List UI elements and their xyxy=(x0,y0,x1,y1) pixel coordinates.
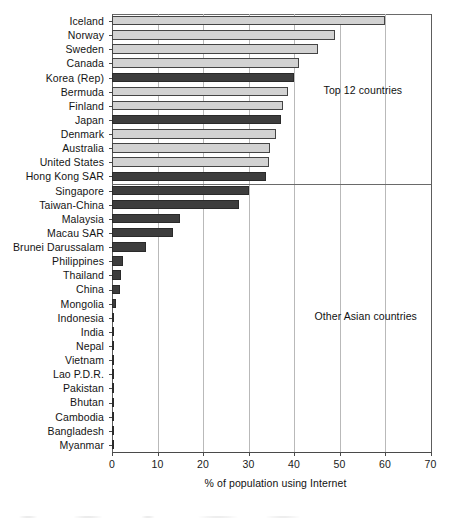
y-tick xyxy=(109,162,112,163)
bar-row xyxy=(112,381,431,395)
y-tick xyxy=(109,332,112,333)
bar-row xyxy=(112,184,431,198)
internet-usage-bar-chart: IcelandNorwaySwedenCanadaKorea (Rep)Berm… xyxy=(0,0,451,526)
bar-row xyxy=(112,212,431,226)
y-tick xyxy=(109,318,112,319)
bar-row xyxy=(112,14,431,28)
bar-malaysia xyxy=(112,214,180,223)
bar-row xyxy=(112,410,431,424)
y-tick xyxy=(109,78,112,79)
y-label-denmark: Denmark xyxy=(61,127,104,141)
bar-row xyxy=(112,438,431,452)
bar-row xyxy=(112,155,431,169)
bar-mongolia xyxy=(112,299,116,308)
y-label-thailand: Thailand xyxy=(63,268,104,282)
bar-india xyxy=(112,327,114,336)
x-tick-label-10: 10 xyxy=(152,458,164,470)
bar-united-states xyxy=(112,157,269,166)
bar-row xyxy=(112,325,431,339)
y-label-mongolia: Mongolia xyxy=(61,297,104,311)
x-tick-label-60: 60 xyxy=(379,458,391,470)
y-label-lao-p-d-r-: Lao P.D.R. xyxy=(53,367,104,381)
x-tick-label-0: 0 xyxy=(109,458,115,470)
bar-pakistan xyxy=(112,383,114,392)
bar-taiwan-china xyxy=(112,200,239,209)
y-tick xyxy=(109,388,112,389)
bar-sweden xyxy=(112,44,318,53)
bar-row xyxy=(112,282,431,296)
y-tick xyxy=(109,219,112,220)
x-axis-title: % of population using Internet xyxy=(0,477,451,489)
bar-finland xyxy=(112,101,283,110)
x-tick-30 xyxy=(249,452,250,456)
x-tick-label-30: 30 xyxy=(243,458,255,470)
x-tick-10 xyxy=(158,452,159,456)
y-label-bangladesh: Bangladesh xyxy=(48,424,104,438)
y-tick xyxy=(109,417,112,418)
bar-cambodia xyxy=(112,412,114,421)
y-label-singapore: Singapore xyxy=(55,184,104,198)
bar-bermuda xyxy=(112,87,288,96)
bar-row xyxy=(112,127,431,141)
scan-artifact xyxy=(18,514,318,520)
x-tick-label-70: 70 xyxy=(425,458,437,470)
bar-denmark xyxy=(112,129,276,138)
x-axis-line xyxy=(112,452,431,453)
y-tick xyxy=(109,445,112,446)
bar-japan xyxy=(112,115,281,124)
y-tick xyxy=(109,346,112,347)
y-label-iceland: Iceland xyxy=(69,14,104,28)
category-label-column: IcelandNorwaySwedenCanadaKorea (Rep)Berm… xyxy=(0,14,108,452)
y-label-india: India xyxy=(81,325,104,339)
bar-korea-rep- xyxy=(112,73,294,82)
y-label-finland: Finland xyxy=(69,99,104,113)
y-tick xyxy=(109,106,112,107)
x-tick-60 xyxy=(385,452,386,456)
bar-macau-sar xyxy=(112,228,173,237)
bar-nepal xyxy=(112,341,114,350)
y-label-nepal: Nepal xyxy=(76,339,104,353)
bar-row xyxy=(112,71,431,85)
y-tick xyxy=(109,205,112,206)
y-tick xyxy=(109,134,112,135)
y-tick xyxy=(109,261,112,262)
y-tick xyxy=(109,304,112,305)
bar-philippines xyxy=(112,256,123,265)
y-label-indonesia: Indonesia xyxy=(58,311,104,325)
y-tick xyxy=(109,247,112,248)
y-label-bermuda: Bermuda xyxy=(61,85,104,99)
x-tick-40 xyxy=(294,452,295,456)
bar-row xyxy=(112,56,431,70)
bar-row xyxy=(112,254,431,268)
bar-thailand xyxy=(112,270,121,279)
y-label-vietnam: Vietnam xyxy=(65,353,104,367)
bar-row xyxy=(112,339,431,353)
bar-row xyxy=(112,353,431,367)
y-label-norway: Norway xyxy=(68,28,104,42)
x-tick-label-20: 20 xyxy=(197,458,209,470)
bar-norway xyxy=(112,30,335,39)
y-label-australia: Australia xyxy=(62,141,104,155)
y-tick xyxy=(109,191,112,192)
bar-row xyxy=(112,424,431,438)
y-tick xyxy=(109,49,112,50)
y-label-sweden: Sweden xyxy=(65,42,104,56)
y-label-japan: Japan xyxy=(75,113,104,127)
bar-bhutan xyxy=(112,398,114,407)
y-label-macau-sar: Macau SAR xyxy=(47,226,104,240)
y-label-united-states: United States xyxy=(40,155,104,169)
bar-row xyxy=(112,226,431,240)
bar-brunei-darussalam xyxy=(112,242,146,251)
bar-row xyxy=(112,297,431,311)
bar-row xyxy=(112,28,431,42)
y-tick xyxy=(109,290,112,291)
y-label-korea-rep-: Korea (Rep) xyxy=(46,71,104,85)
x-tick-20 xyxy=(203,452,204,456)
bar-row xyxy=(112,395,431,409)
bar-row xyxy=(112,268,431,282)
y-tick xyxy=(109,360,112,361)
bar-china xyxy=(112,285,120,294)
y-label-brunei-darussalam: Brunei Darussalam xyxy=(13,240,104,254)
bar-lao-p-d-r- xyxy=(112,369,114,378)
y-tick xyxy=(109,403,112,404)
